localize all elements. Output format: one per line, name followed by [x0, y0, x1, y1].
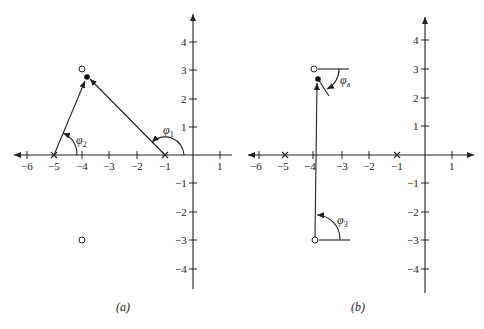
tick-label: −5 [277, 160, 289, 172]
tick-label: −2 [131, 160, 143, 172]
panel-b: −6 −5 −4 −3 −2 −1 1 4 3 2 1 −1 −2 −3 −4 [248, 17, 474, 314]
x-ticks-a: −6 −5 −4 −3 −2 −1 1 [21, 151, 223, 172]
tick-label: −3 [175, 234, 187, 246]
phi2-label: φ2 [76, 133, 87, 149]
vector-from-pole-1 [90, 79, 165, 155]
phi3-label: φ3 [337, 213, 348, 229]
tick-label: −2 [363, 160, 375, 172]
tick-label: 1 [181, 121, 187, 133]
tick-label: −3 [336, 160, 348, 172]
tick-label: −4 [407, 263, 419, 275]
tick-label: −3 [407, 234, 419, 246]
tick-label: −6 [21, 160, 33, 172]
tick-label: −4 [76, 160, 88, 172]
tick-label: −2 [407, 206, 419, 218]
tick-label: 4 [413, 34, 419, 46]
tick-label: −4 [175, 263, 187, 275]
caption-a: (a) [116, 300, 130, 314]
tick-label: 4 [181, 36, 187, 48]
tick-label: 3 [181, 64, 187, 76]
zero-marker-icon [79, 66, 85, 72]
zero-marker-icon [311, 66, 317, 72]
tick-label: −6 [250, 160, 262, 172]
angle-arc-phia [327, 69, 339, 89]
tick-label: −1 [407, 177, 419, 189]
x-ticks-b: −6 −5 −4 −3 −2 −1 1 [250, 151, 455, 172]
tick-label: −2 [175, 206, 187, 218]
tick-label: 3 [413, 63, 419, 75]
caption-b: (b) [351, 300, 365, 314]
tick-label: −3 [103, 160, 115, 172]
zero-marker-icon [79, 237, 85, 243]
tick-label: −1 [159, 160, 171, 172]
root-locus-figure: −6 −5 −4 −3 −2 −1 1 4 3 2 1 −1 −2 −3 −4 [0, 0, 484, 329]
phi1-label: φ1 [163, 123, 174, 139]
tick-label: 1 [217, 160, 223, 172]
tick-label: 2 [413, 92, 419, 104]
angle-arc-phi2 [63, 133, 77, 155]
phia-label: φa [340, 73, 351, 89]
tick-label: 2 [181, 93, 187, 105]
tick-label: −1 [391, 160, 403, 172]
tick-label: −4 [304, 160, 316, 172]
departure-direction [318, 79, 329, 96]
test-point [84, 74, 90, 80]
panel-a: −6 −5 −4 −3 −2 −1 1 4 3 2 1 −1 −2 −3 −4 [14, 14, 232, 314]
tick-label: −5 [48, 160, 60, 172]
tick-label: 1 [449, 160, 455, 172]
tick-label: 1 [413, 120, 419, 132]
tick-label: −1 [175, 177, 187, 189]
zero-marker-icon [312, 237, 318, 243]
